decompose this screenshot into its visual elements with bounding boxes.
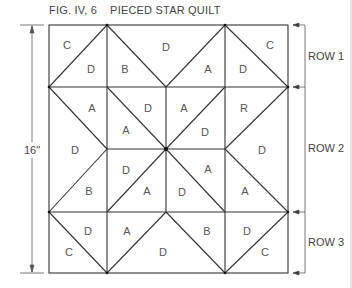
arrow-up-icon <box>30 26 34 33</box>
patch-label: D <box>84 225 92 237</box>
patch-label: D <box>178 186 186 198</box>
patch-label: D <box>122 164 130 176</box>
patch-label: A <box>123 225 131 237</box>
patch-label: A <box>204 63 212 75</box>
patch-label: C <box>65 246 73 258</box>
patch-label: A <box>241 185 249 197</box>
patch-label: A <box>180 102 188 114</box>
row-3-label: ROW 3 <box>308 236 344 248</box>
patch-label: D <box>258 144 266 156</box>
row-2-label: ROW 2 <box>308 142 344 154</box>
patch-label: C <box>261 246 269 258</box>
patch-label: D <box>239 63 247 75</box>
patch-label: D <box>71 144 79 156</box>
row-brackets <box>293 23 305 275</box>
patch-label: B <box>121 63 128 75</box>
patch-label: D <box>201 126 209 138</box>
arrow-left-icon <box>293 271 299 275</box>
patch-label: A <box>88 102 96 114</box>
patch-label: D <box>159 246 167 258</box>
patch-label: R <box>240 102 248 114</box>
arrow-left-icon <box>293 210 299 214</box>
patch-label: D <box>162 41 170 53</box>
patch-label: A <box>143 185 151 197</box>
quilt-diagram: 16" <box>0 0 352 288</box>
patch-label: D <box>144 102 152 114</box>
patch-label: D <box>243 225 251 237</box>
patch-label: C <box>266 39 274 51</box>
dimension-label: 16" <box>24 144 40 156</box>
arrow-left-icon <box>293 23 299 27</box>
arrow-left-icon <box>293 85 299 89</box>
patch-label: A <box>204 163 212 175</box>
arrow-down-icon <box>30 265 34 272</box>
patch-label: B <box>203 225 210 237</box>
patch-label: D <box>87 63 95 75</box>
row-1-label: ROW 1 <box>308 50 344 62</box>
patch-label: C <box>63 39 71 51</box>
patch-label: B <box>85 185 92 197</box>
patch-label: A <box>122 124 130 136</box>
